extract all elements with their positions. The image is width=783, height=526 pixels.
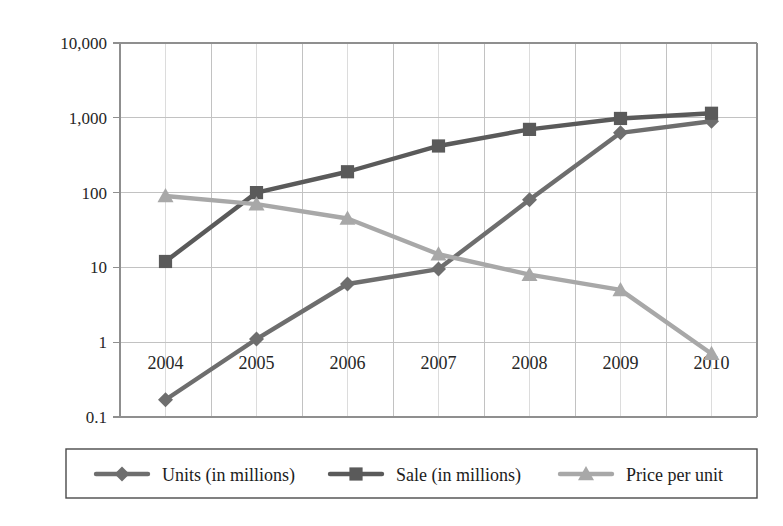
legend: Units (in millions)Sale (in millions)Pri… bbox=[66, 449, 757, 498]
x-tick-label: 2008 bbox=[512, 353, 548, 373]
legend-items: Units (in millions)Sale (in millions)Pri… bbox=[96, 465, 723, 486]
square-marker bbox=[705, 107, 718, 120]
square-marker bbox=[341, 165, 354, 178]
y-tick-label: 1,000 bbox=[69, 109, 107, 128]
x-tick-label: 2004 bbox=[148, 353, 184, 373]
y-tick-marks bbox=[113, 43, 120, 417]
legend-label: Units (in millions) bbox=[162, 465, 295, 486]
x-tick-label: 2006 bbox=[330, 353, 366, 373]
square-marker bbox=[614, 112, 627, 125]
x-tick-label: 2009 bbox=[603, 353, 639, 373]
y-tick-label: 1 bbox=[99, 333, 108, 352]
y-tick-label: 10 bbox=[90, 258, 107, 277]
square-marker bbox=[523, 123, 536, 136]
square-marker bbox=[432, 139, 445, 152]
y-tick-label: 10,000 bbox=[60, 34, 107, 53]
y-tick-label: 0.1 bbox=[86, 408, 107, 427]
x-tick-label: 2007 bbox=[421, 353, 457, 373]
y-axis-tick-labels: 10,0001,0001001010.1 bbox=[60, 34, 107, 427]
chart-container: 10,0001,0001001010.1 2004200520062007200… bbox=[0, 0, 783, 526]
square-marker bbox=[159, 255, 172, 268]
legend-label: Sale (in millions) bbox=[396, 465, 521, 486]
legend-label: Price per unit bbox=[626, 465, 723, 485]
y-tick-label: 100 bbox=[82, 184, 108, 203]
log-line-chart: 10,0001,0001001010.1 2004200520062007200… bbox=[0, 0, 783, 526]
x-tick-label: 2005 bbox=[239, 353, 275, 373]
square-marker bbox=[349, 467, 362, 480]
